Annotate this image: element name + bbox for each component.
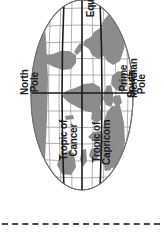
land-new-zealand — [54, 181, 61, 187]
dashed-separator-line — [2, 223, 160, 225]
label-north-pole: North Pole — [20, 55, 40, 109]
label-tropic-of-cancer: Tropic of Cancer — [59, 109, 79, 171]
label-tropic-of-capricorn: Tropic of Capricorn — [92, 108, 112, 176]
label-prime-meridian: Prime Meridian — [119, 45, 139, 111]
land-alaska — [114, 5, 123, 19]
figure-root: Equator North Pole South Pole Prime Meri… — [0, 0, 164, 244]
label-equator: Equator — [86, 0, 96, 27]
